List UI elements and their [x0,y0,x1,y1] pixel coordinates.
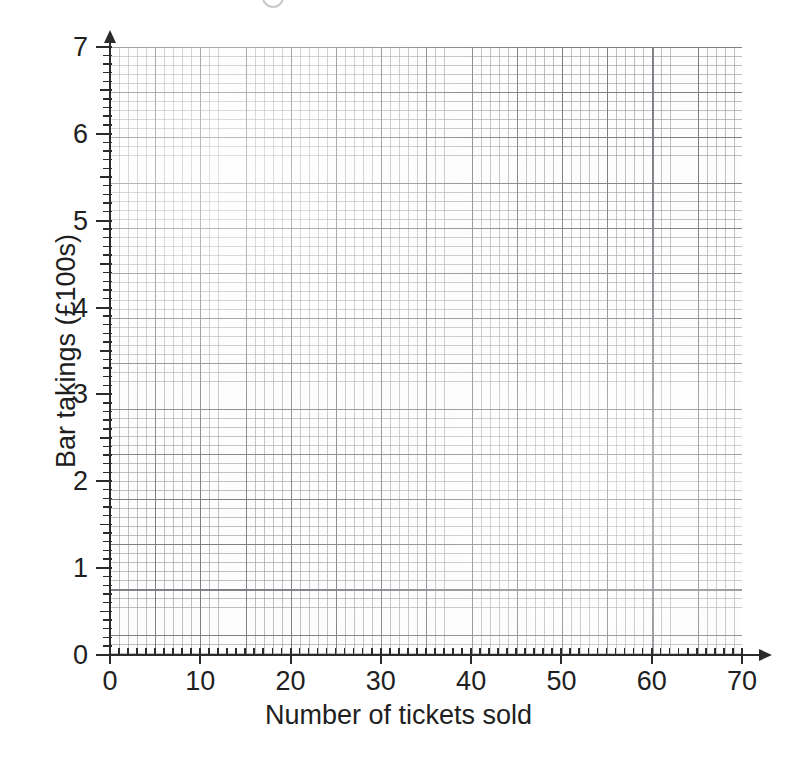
y-tick-major [96,480,112,482]
x-tick-minor [118,648,120,656]
x-tick-minor [461,648,463,656]
y-tick-mid [100,350,112,352]
y-tick-minor [103,645,112,646]
y-tick-minor [103,419,112,420]
x-axis-arrow-icon [759,649,772,661]
x-tick-minor [371,648,373,656]
x-tick-minor [353,648,355,656]
y-tick-mid [100,611,112,613]
x-tick-minor [434,648,436,656]
x-tick-minor [281,648,283,656]
y-tick-minor [103,541,112,542]
y-tick-minor [103,550,112,551]
y-tick-minor [103,532,112,533]
x-tick-label-70: 70 [727,668,757,695]
x-tick-minor [515,648,517,656]
y-tick-minor [103,315,112,316]
y-tick-minor [103,298,112,299]
x-tick-minor [208,648,210,656]
x-tick-minor [723,648,725,656]
x-tick-minor [362,648,364,656]
x-tick-minor [443,648,445,656]
y-tick-minor [103,376,112,377]
x-tick-minor [389,648,391,656]
x-tick-minor [317,648,319,656]
x-tick-minor [217,648,219,656]
y-tick-minor [103,341,112,342]
x-tick-minor [624,648,626,656]
x-tick-minor [705,648,707,656]
y-tick-minor [103,489,112,490]
x-tick-minor [597,648,599,656]
x-tick-minor [326,648,328,656]
x-tick-minor [272,648,274,656]
x-tick-minor [497,648,499,656]
x-tick-major [109,648,111,664]
y-tick-minor [103,63,112,64]
x-tick-minor [669,648,671,656]
y-axis-title: Bar takings (£100s) [44,47,88,655]
y-tick-minor [103,463,112,464]
x-tick-major [470,648,472,664]
y-tick-minor [103,628,112,629]
x-tick-minor [127,648,129,656]
x-tick-label-50: 50 [546,668,576,695]
y-tick-major [96,133,112,135]
y-tick-minor [103,98,112,99]
x-tick-minor [551,648,553,656]
x-tick-minor [154,648,156,656]
y-tick-minor [103,202,112,203]
y-tick-minor [103,637,112,638]
y-tick-mid [100,263,112,265]
x-tick-minor [136,648,138,656]
y-tick-major [96,393,112,395]
x-tick-minor [633,648,635,656]
y-tick-minor [103,619,112,620]
y-tick-minor [103,185,112,186]
y-tick-minor [103,498,112,499]
x-tick-label-30: 30 [366,668,396,695]
y-tick-minor [103,324,112,325]
x-tick-minor [642,648,644,656]
x-tick-minor [244,648,246,656]
x-tick-minor [262,648,264,656]
x-tick-minor [172,648,174,656]
y-tick-minor [103,55,112,56]
x-tick-major [380,648,382,664]
x-tick-minor [145,648,147,656]
y-tick-minor [103,254,112,255]
y-tick-minor [103,81,112,82]
x-tick-major [651,648,653,664]
y-tick-minor [103,72,112,73]
x-tick-minor [308,648,310,656]
y-tick-minor [103,472,112,473]
x-tick-minor [407,648,409,656]
y-axis-arrow-icon [104,30,116,43]
y-tick-minor [103,142,112,143]
y-tick-minor [103,281,112,282]
x-tick-minor [398,648,400,656]
y-tick-mid [100,176,112,178]
y-tick-minor [103,237,112,238]
y-tick-mid [100,524,112,526]
y-tick-major [96,46,112,48]
x-tick-minor [578,648,580,656]
x-tick-minor [416,648,418,656]
y-tick-mid [100,437,112,439]
y-tick-minor [103,107,112,108]
y-tick-minor [103,602,112,603]
y-tick-minor [103,385,112,386]
x-tick-minor [425,648,427,656]
x-tick-minor [606,648,608,656]
x-tick-minor [588,648,590,656]
y-tick-minor [103,367,112,368]
graph-page: 01234567 010203040506070 Number of ticke… [0,0,797,762]
y-tick-minor [103,515,112,516]
y-tick-minor [103,506,112,507]
x-axis-title: Number of tickets sold [0,700,797,731]
x-tick-minor [615,648,617,656]
x-tick-label-10: 10 [185,668,215,695]
x-tick-major [560,648,562,664]
x-tick-minor [181,648,183,656]
y-tick-minor [103,272,112,273]
